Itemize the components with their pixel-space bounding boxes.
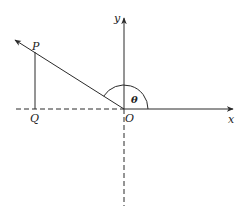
angle-diagram: y x O P Q θ (0, 0, 249, 218)
point-q-label: Q (30, 112, 39, 125)
origin-label: O (125, 112, 134, 125)
angle-arc (104, 85, 148, 109)
point-p-label: P (31, 40, 40, 53)
angle-theta-label: θ (131, 94, 138, 105)
y-axis-label: y (113, 12, 121, 25)
x-axis-label: x (228, 113, 235, 126)
